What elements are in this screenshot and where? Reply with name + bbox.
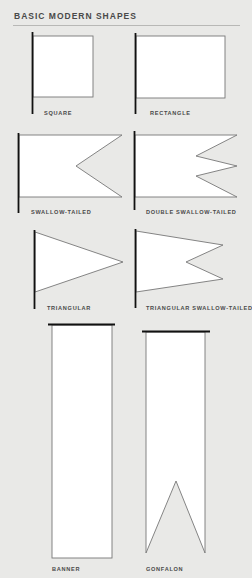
- triangular-swallow-tailed-flag: [136, 229, 224, 308]
- square-flag: [33, 32, 94, 114]
- label-triangular: TRIANGULAR: [47, 305, 91, 311]
- double-swallow-tailed-flag: [135, 131, 238, 210]
- label-swallow-tailed: SWALLOW-TAILED: [31, 209, 92, 215]
- rectangle-flag: [136, 33, 226, 114]
- label-double-swallow-tailed: DOUBLE SWALLOW-TAILED: [146, 209, 237, 215]
- label-square: SQUARE: [44, 110, 72, 116]
- triangular-flag: [35, 230, 124, 309]
- label-gonfalon: GONFALON: [146, 566, 183, 572]
- label-triangular-swallow-tailed: TRIANGULAR SWALLOW-TAILED: [146, 305, 252, 311]
- label-rectangle: RECTANGLE: [150, 110, 191, 116]
- gonfalon-flag: [142, 332, 210, 554]
- label-banner: BANNER: [52, 566, 80, 572]
- banner-flag: [48, 325, 115, 559]
- swallow-tailed-flag: [19, 133, 123, 213]
- flag-shapes-diagram: [0, 0, 252, 578]
